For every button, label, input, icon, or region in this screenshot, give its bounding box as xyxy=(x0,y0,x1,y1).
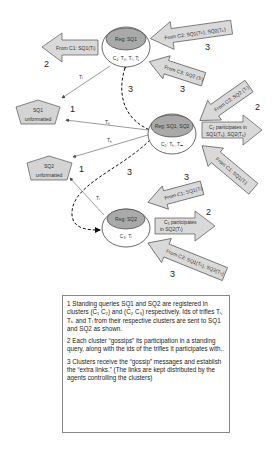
arrow-c3-in-from-c2: From C2: SQ1(Tₖ), SQ2(Tₖ) xyxy=(143,231,230,286)
sq1-state: unformatted xyxy=(25,116,52,122)
standing-query-sq2: SQ2 unformatted xyxy=(27,156,72,180)
edge-label: Tₗ xyxy=(96,195,100,201)
edge-label: Tₖ xyxy=(107,137,112,143)
arrow-c3-out-label-1: C₃ participates xyxy=(164,219,197,225)
cluster-c2: Reg: SQ1, SQ2 C₂: Tₖ, Tₘ xyxy=(148,114,196,154)
arrow-c2-in-from-c1: From C1: SQ1(Tᵢ) xyxy=(194,137,261,198)
arrow-c2-out-label-2: SQ1(Tₖ), SQ2(Tₖ) xyxy=(206,131,246,137)
step-number: 1 xyxy=(70,104,75,114)
legend-step-3: 3 Clusters receive the “gossip” messages… xyxy=(67,358,225,383)
arrow-c2-in-from-c3-label: From C3: SQ2 (Tₗ) xyxy=(213,84,250,113)
step-number: 3 xyxy=(127,167,132,177)
step-number: 1 xyxy=(79,164,84,174)
arrow-c1-in-from-c2: From C2: SQ1(Tₖ), SQ2(Tₖ) xyxy=(148,13,233,52)
step-number: 3 xyxy=(170,269,175,279)
legend-step-1: 1 Standing queries SQ1 and SQ2 are regis… xyxy=(67,300,225,333)
step-number: 2 xyxy=(44,59,49,69)
arrow-c2-out-label-1: C₂ participates in xyxy=(209,124,247,130)
sq2-state: unformatted xyxy=(36,172,63,178)
step-number: 2 xyxy=(206,207,211,217)
step-number: 3 xyxy=(180,84,185,94)
arrow-c3-out-label-2: in SQ2(Tₗ) xyxy=(160,226,183,232)
cluster-c1-members: C₁: T₀, Tᵢ, Tⱼ xyxy=(113,55,139,61)
gossip-diagram: From C1: SQ1(Tᵢ) 2 From C2: SQ1(Tₖ), SQ2… xyxy=(0,0,278,290)
legend-box: 1 Standing queries SQ1 and SQ2 are regis… xyxy=(62,295,230,433)
edge-label: Tᵢ xyxy=(79,74,83,80)
cluster-c3-reg: Reg: SQ2 xyxy=(115,216,137,222)
edge-c1-to-sq1 xyxy=(62,66,110,98)
step-number: 3 xyxy=(184,172,189,182)
legend-step-2: 2 Each cluster “gossips” its participati… xyxy=(67,337,225,354)
arrow-c2-in-from-c1-label: From C1: SQ1(Tᵢ) xyxy=(215,156,249,186)
cluster-c2-members: C₂: Tₖ, Tₘ xyxy=(161,141,183,147)
cluster-c3-members: C₃: Tₗ xyxy=(120,233,132,239)
arrow-c1-out-label: From C1: SQ1(Tᵢ) xyxy=(56,45,96,51)
arrow-c3-in-from-c1: From C1: SQ1(Tᵢ) xyxy=(145,176,206,214)
cluster-c1-reg: Reg: SQ1 xyxy=(115,36,137,42)
edge-label: Tₖ xyxy=(105,119,110,125)
sq1-name: SQ1 xyxy=(33,107,43,113)
cluster-c3: Reg: SQ2 C₃: Tₗ xyxy=(102,209,150,247)
arrow-c1-out: From C1: SQ1(Tᵢ) xyxy=(42,33,98,62)
sq2-name: SQ2 xyxy=(44,163,54,169)
step-number: 2 xyxy=(255,102,260,112)
step-number: 3 xyxy=(128,84,133,94)
cluster-c2-reg: Reg: SQ1, SQ2 xyxy=(155,123,190,129)
arrow-c1-in-from-c3: From C3: SQ2 (Tₗ) xyxy=(146,50,208,91)
standing-query-sq1: SQ1 unformatted xyxy=(16,100,60,124)
step-number: 3 xyxy=(205,42,210,52)
dashed-link-c1-c2 xyxy=(122,68,155,132)
cluster-c1: Reg: SQ1 C₁: T₀, Tᵢ, Tⱼ xyxy=(102,27,150,67)
